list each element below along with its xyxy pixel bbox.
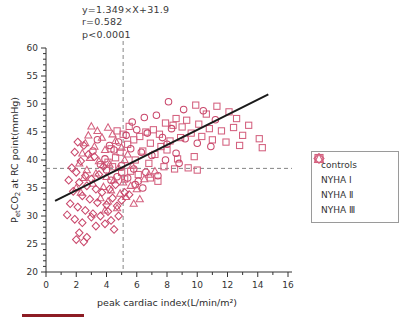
diamond-marker-icon [312,152,327,165]
svg-text:25: 25 [27,239,38,249]
svg-text:35: 35 [27,183,38,193]
svg-text:10: 10 [192,280,204,290]
legend-item-nyha-1[interactable]: NYHA Ⅰ [318,172,394,187]
figure-scatter-plot: y=1.349×X+31.9 r=0.582 p<0.0001 20253035… [0,0,407,323]
svg-text:4: 4 [104,280,110,290]
svg-text:45: 45 [27,127,38,137]
svg-text:14: 14 [252,280,264,290]
svg-text:PetCO2 at RC point(mmHg): PetCO2 at RC point(mmHg) [9,97,22,223]
svg-text:8: 8 [164,280,170,290]
svg-text:50: 50 [27,99,39,109]
chart-legend: controls NYHA Ⅰ NYHA Ⅱ NYHA Ⅲ [311,151,399,223]
svg-text:6: 6 [134,280,140,290]
svg-text:40: 40 [27,155,39,165]
svg-text:0: 0 [43,280,49,290]
svg-text:2: 2 [73,280,79,290]
caption-rule [22,314,84,317]
svg-text:12: 12 [222,280,233,290]
legend-label-nyha-1: NYHA Ⅰ [318,175,352,185]
svg-text:30: 30 [27,211,39,221]
svg-text:16: 16 [282,280,294,290]
svg-text:peak cardiac index(L/min/m²): peak cardiac index(L/min/m²) [97,297,237,308]
svg-text:60: 60 [27,43,39,53]
svg-text:55: 55 [27,71,38,81]
legend-label-nyha-2: NYHA Ⅱ [318,190,353,200]
legend-item-controls[interactable]: controls [318,157,394,172]
svg-text:20: 20 [27,267,39,277]
legend-item-nyha-3[interactable]: NYHA Ⅲ [318,202,394,217]
legend-item-nyha-2[interactable]: NYHA Ⅱ [318,187,394,202]
legend-label-nyha-3: NYHA Ⅲ [318,205,355,215]
